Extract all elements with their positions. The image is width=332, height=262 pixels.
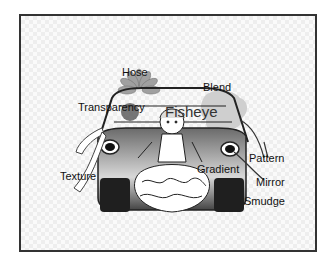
label-transparency: Transparency	[78, 102, 145, 113]
illustration-frame: Hose Blend Transparency Fisheye Texture …	[19, 14, 317, 252]
label-hose: Hose	[122, 67, 148, 78]
label-fisheye: Fisheye	[165, 104, 218, 119]
label-blend: Blend	[203, 82, 231, 93]
label-texture: Texture	[60, 171, 96, 182]
right-wheel	[214, 178, 244, 212]
label-pattern: Pattern	[249, 153, 284, 164]
label-gradient: Gradient	[197, 164, 239, 175]
label-mirror: Mirror	[256, 177, 285, 188]
label-smudge: Smudge	[244, 196, 285, 207]
left-wheel	[100, 178, 130, 212]
car-illustration	[21, 16, 315, 250]
